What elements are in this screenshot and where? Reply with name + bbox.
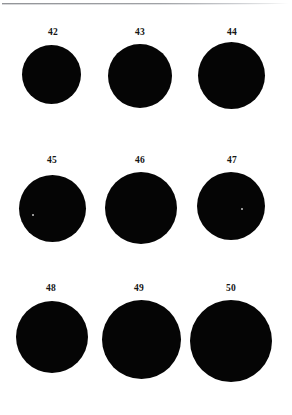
specimen-grid: 424344454647484950 bbox=[0, 0, 292, 415]
specimen-label: 49 bbox=[127, 283, 151, 294]
specimen-disc bbox=[19, 175, 86, 242]
specimen-disc bbox=[16, 301, 88, 373]
specimen-label: 46 bbox=[128, 155, 152, 166]
specimen-label: 48 bbox=[39, 283, 63, 294]
specimen-label: 42 bbox=[41, 27, 65, 38]
scan-speck bbox=[241, 208, 243, 210]
specimen-disc bbox=[102, 300, 181, 379]
specimen-label: 47 bbox=[220, 155, 244, 166]
figure-plate: 424344454647484950 bbox=[0, 0, 292, 415]
specimen-disc bbox=[197, 172, 265, 240]
specimen-label: 50 bbox=[219, 283, 243, 294]
specimen-label: 44 bbox=[220, 27, 244, 38]
specimen-label: 43 bbox=[128, 27, 152, 38]
specimen-disc bbox=[22, 45, 81, 104]
specimen-disc bbox=[190, 300, 272, 382]
specimen-disc bbox=[108, 44, 172, 108]
specimen-disc bbox=[105, 172, 177, 244]
scan-speck bbox=[32, 214, 34, 216]
specimen-disc bbox=[198, 42, 265, 109]
specimen-label: 45 bbox=[40, 155, 64, 166]
